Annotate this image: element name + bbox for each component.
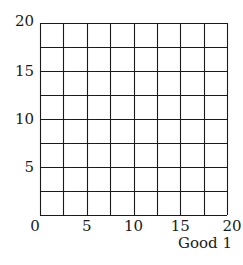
y-tick-label: 20: [15, 12, 34, 30]
x-tick-label: 15: [171, 217, 190, 235]
grid-lines: [40, 23, 228, 216]
y-axis-tick-labels: 5101520: [15, 12, 34, 176]
x-tick-label: 5: [82, 217, 92, 235]
x-tick-label: 10: [124, 217, 143, 235]
y-tick-label: 15: [15, 62, 34, 80]
x-tick-label: 20: [222, 217, 241, 235]
y-tick-label: 5: [24, 158, 34, 176]
x-axis-tick-labels: 05101520: [30, 217, 241, 235]
chart: 05101520 5101520 Good 1: [0, 0, 243, 265]
y-tick-label: 10: [15, 110, 34, 128]
x-tick-label: 0: [30, 217, 40, 235]
x-axis-title: Good 1: [178, 234, 232, 252]
